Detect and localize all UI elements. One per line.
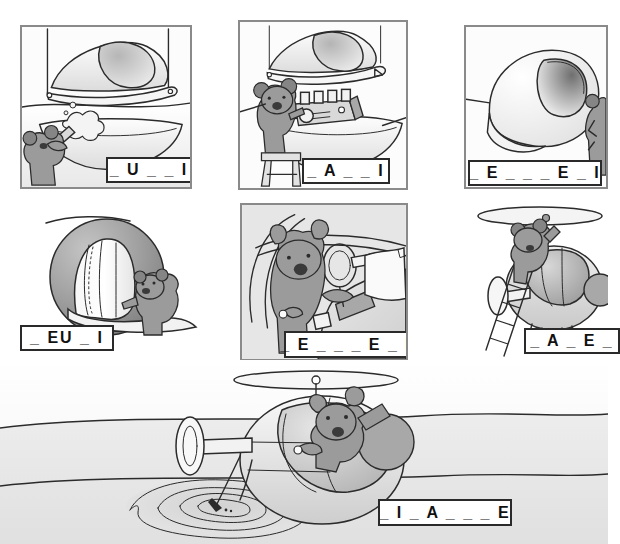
panel-1-word-label: _ U _ _ I [106, 157, 192, 183]
panel-3-word-label: _ E _ _ _ E _ I [468, 160, 602, 186]
panel-1[interactable]: _ U _ _ I [20, 25, 192, 189]
panel-7-illustration [0, 360, 608, 544]
panel-4[interactable]: _ EU _ I [10, 205, 210, 360]
panel-5[interactable]: _ E _ _ _ E _ I [240, 203, 408, 361]
panel-3[interactable]: _ E _ _ _ E _ I [464, 25, 608, 189]
panel-5-word-label: _ E _ _ _ E _ I [284, 331, 408, 358]
panel-6-word-label: _ A _ E _ [524, 328, 620, 354]
panel-7-word-label: _ I _ A _ _ _ E [378, 499, 512, 526]
panel-2-word-label: _ A _ _ I [302, 158, 390, 184]
panel-2[interactable]: _ A _ _ I [238, 20, 408, 190]
panel-4-word-label: _ EU _ I [20, 325, 114, 351]
panel-7[interactable]: _ I _ A _ _ _ E [0, 360, 608, 544]
panel-6[interactable]: _ A _ E _ [460, 202, 608, 360]
